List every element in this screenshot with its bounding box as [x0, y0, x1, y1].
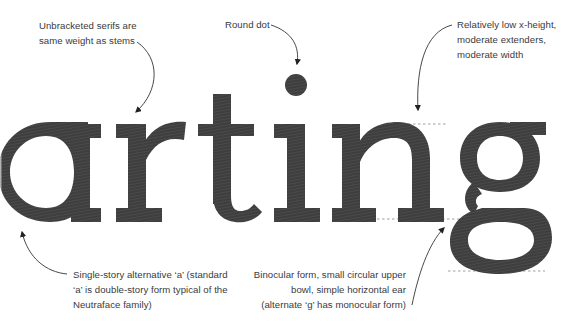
typography-specimen: Unbracketed serifs are same weight as st… — [0, 0, 578, 323]
arrow-xheight — [418, 25, 452, 110]
glyph-t — [198, 94, 262, 222]
annotation-line: bowl, simple horizontal ear — [226, 282, 406, 297]
annotation-line: (alternate ‘g’ has monocular form) — [226, 297, 406, 312]
annotation-binocular-g: Binocular form, small circular upper bow… — [226, 267, 406, 312]
arrow-single-story-a — [22, 232, 67, 274]
glyph-group — [0, 74, 552, 274]
arrow-dot — [271, 25, 298, 64]
annotation-line: moderate extenders, — [457, 32, 556, 47]
glyph-i — [274, 74, 320, 222]
annotation-line: Single-story alternative ‘a’ (standard — [73, 267, 228, 282]
annotation-line: Round dot — [225, 17, 270, 32]
annotation-line: Relatively low x-height, — [457, 17, 556, 32]
annotation-single-story-a: Single-story alternative ‘a’ (standard ‘… — [73, 267, 228, 312]
annotation-line: moderate width — [457, 47, 556, 62]
glyph-r — [116, 122, 186, 222]
glyph-n — [332, 122, 444, 222]
annotation-line: Neutraface family) — [73, 297, 228, 312]
annotation-line: ‘a’ is double-story form typical of the — [73, 282, 228, 297]
annotation-line: Unbracketed serifs are — [39, 18, 137, 33]
annotation-line: same weight as stems — [39, 33, 137, 48]
arrow-serifs — [136, 42, 154, 112]
annotation-x-height: Relatively low x-height, moderate extend… — [457, 17, 556, 62]
annotation-round-dot: Round dot — [225, 17, 270, 32]
annotation-serifs: Unbracketed serifs are same weight as st… — [39, 18, 137, 48]
arrow-binocular-g — [412, 228, 444, 305]
annotation-line: Binocular form, small circular upper — [226, 267, 406, 282]
round-dot — [285, 74, 307, 96]
glyph-g — [450, 122, 552, 274]
